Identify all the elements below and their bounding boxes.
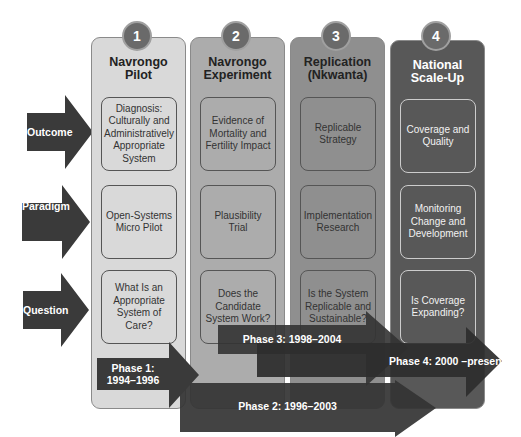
- row-label-question: Question: [23, 304, 67, 316]
- paradigm-box: Monitoring Change and Development: [400, 185, 476, 259]
- row-arrow-outcome: Outcome: [27, 95, 93, 169]
- stage-number-badge: 3: [321, 21, 351, 51]
- outcome-box: Coverage and Quality: [400, 99, 476, 173]
- paradigm-box: Implementation Research: [300, 185, 376, 259]
- paradigm-box: Open-Systems Micro Pilot: [101, 185, 177, 259]
- outcome-box: Replicable Strategy: [300, 97, 376, 171]
- phase-2-label: Phase 2: 1996–2003: [180, 400, 395, 412]
- stage-title: Navrongo Pilot: [92, 56, 185, 82]
- phase-4-arrow: Phase 4: 2000 –present: [257, 327, 502, 397]
- paradigm-box: Plausibility Trial: [200, 185, 276, 259]
- stage-title: Replication (Nkwanta): [291, 56, 384, 82]
- stage-title: Navrongo Experiment: [191, 56, 284, 82]
- phase-4-label: Phase 4: 2000 –present: [377, 355, 517, 367]
- outcome-box: Diagnosis: Culturally and Administrative…: [101, 97, 177, 171]
- arrow-right-icon: [22, 185, 90, 259]
- row-arrow-question: Question: [23, 273, 89, 347]
- stage-number-badge: 2: [221, 21, 251, 51]
- stage-number-badge: 4: [421, 21, 451, 51]
- phase-1-arrow: Phase 1: 1994–1996: [97, 342, 199, 408]
- stage-number-badge: 1: [122, 21, 152, 51]
- outcome-box: Evidence of Mortality and Fertility Impa…: [200, 97, 276, 171]
- question-box: What Is an Appropriate System of Care?: [101, 270, 177, 344]
- phase-1-label: Phase 1: 1994–1996: [97, 362, 169, 386]
- row-label-paradigm: Paradigm: [22, 200, 66, 212]
- row-arrow-paradigm: Paradigm: [22, 185, 90, 259]
- stage-title: National Scale-Up: [391, 59, 484, 85]
- row-label-outcome: Outcome: [27, 126, 67, 138]
